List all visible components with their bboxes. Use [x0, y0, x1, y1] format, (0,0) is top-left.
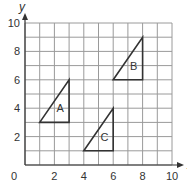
triangle-label-c: C [100, 131, 108, 143]
triangle-label-a: A [57, 102, 65, 114]
triangle-label-b: B [130, 60, 137, 72]
y-tick-label: 4 [14, 102, 20, 114]
x-axis-label: x [186, 158, 187, 172]
y-tick-label: 10 [8, 17, 20, 29]
y-tick-label: 6 [14, 74, 20, 86]
x-tick-label: 0 [11, 170, 17, 182]
x-tick-label: 4 [81, 170, 87, 182]
x-tick-label: 10 [166, 170, 178, 182]
y-tick-label: 2 [14, 131, 20, 143]
y-axis-label: y [18, 0, 26, 14]
x-tick-label: 2 [51, 170, 57, 182]
coordinate-grid: xy0246810246810ABC [0, 0, 187, 182]
y-axis-arrow-icon [22, 13, 28, 20]
x-tick-label: 8 [140, 170, 146, 182]
x-axis-arrow-icon [177, 162, 184, 168]
x-tick-label: 6 [110, 170, 116, 182]
y-tick-label: 8 [14, 45, 20, 57]
